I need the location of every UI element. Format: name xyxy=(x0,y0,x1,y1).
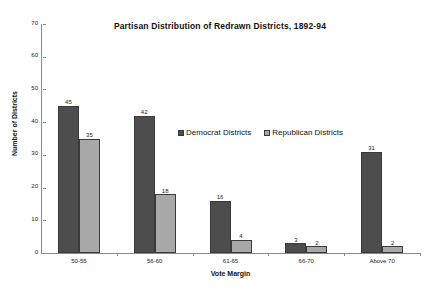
bar-value-label: 35 xyxy=(86,132,93,138)
legend-label: Democrat Districts xyxy=(186,129,251,137)
x-axis-line xyxy=(41,253,420,254)
bar-republican: 2 xyxy=(306,246,327,253)
legend-label: Republican Districts xyxy=(272,129,343,137)
x-category-label: Above 70 xyxy=(337,258,427,264)
bar-chart: Partisan Distribution of Redrawn Distric… xyxy=(0,0,440,297)
bar-group: 4535 xyxy=(58,24,100,253)
bar-republican: 4 xyxy=(231,240,252,253)
bar-value-label: 2 xyxy=(391,240,394,246)
y-tick-label: 20 xyxy=(31,183,38,189)
bar-democrat: 3 xyxy=(285,243,306,253)
y-tick-label: 0 xyxy=(35,249,38,255)
bar-value-label: 31 xyxy=(368,145,375,151)
y-tick-label: 70 xyxy=(31,20,38,26)
bar-democrat: 45 xyxy=(58,106,79,253)
bar-democrat: 31 xyxy=(361,152,382,253)
y-tick-mark xyxy=(43,253,46,254)
x-tick-mark xyxy=(344,253,345,256)
legend-swatch-icon xyxy=(178,130,184,136)
x-tick-mark xyxy=(420,253,421,256)
bar-group: 312 xyxy=(361,24,403,253)
legend-item-democrat[interactable]: Democrat Districts xyxy=(178,129,251,137)
bar-group: 4218 xyxy=(134,24,176,253)
legend-swatch-icon xyxy=(264,130,270,136)
y-tick-label: 40 xyxy=(31,118,38,124)
bar-value-label: 42 xyxy=(141,109,148,115)
x-tick-mark xyxy=(117,253,118,256)
bar-group: 164 xyxy=(210,24,252,253)
y-tick-label: 50 xyxy=(31,85,38,91)
x-tick-mark xyxy=(268,253,269,256)
bar-value-label: 16 xyxy=(217,194,224,200)
chart-legend: Democrat DistrictsRepublican Districts xyxy=(178,129,343,137)
plot-area: 4535421816432312 xyxy=(41,24,420,253)
x-axis-title: Vote Margin xyxy=(41,270,420,277)
y-axis-title: Number of Districts xyxy=(11,74,18,174)
bar-republican: 2 xyxy=(382,246,403,253)
y-tick-label: 30 xyxy=(31,150,38,156)
bar-value-label: 4 xyxy=(239,233,242,239)
y-tick-label: 10 xyxy=(31,216,38,222)
bar-republican: 35 xyxy=(79,139,100,254)
bar-value-label: 45 xyxy=(65,99,72,105)
bar-value-label: 18 xyxy=(162,188,169,194)
x-tick-mark xyxy=(193,253,194,256)
bar-republican: 18 xyxy=(155,194,176,253)
y-tick-label: 60 xyxy=(31,52,38,58)
legend-item-republican[interactable]: Republican Districts xyxy=(264,129,343,137)
bar-democrat: 42 xyxy=(134,116,155,253)
bar-group: 32 xyxy=(285,24,327,253)
bar-value-label: 2 xyxy=(315,240,318,246)
bar-democrat: 16 xyxy=(210,201,231,253)
bar-value-label: 3 xyxy=(294,237,297,243)
